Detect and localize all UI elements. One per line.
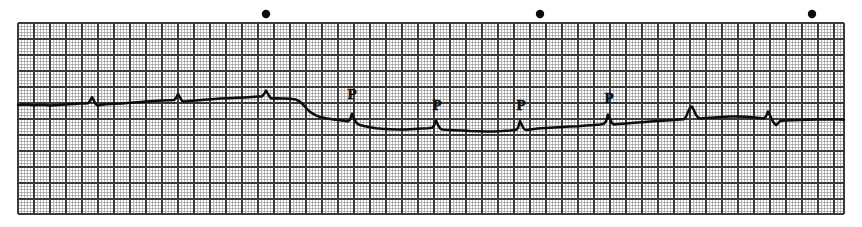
p-wave-label: P [604, 90, 613, 106]
p-wave-label: P [347, 86, 356, 102]
calibration-dot [262, 10, 270, 18]
ecg-rhythm-strip-figure: PPPP [0, 0, 862, 227]
calibration-dot [536, 10, 544, 18]
ecg-canvas: PPPP [0, 0, 862, 227]
p-wave-label: P [516, 97, 525, 113]
calibration-dot [808, 10, 816, 18]
p-wave-label: P [432, 97, 441, 113]
